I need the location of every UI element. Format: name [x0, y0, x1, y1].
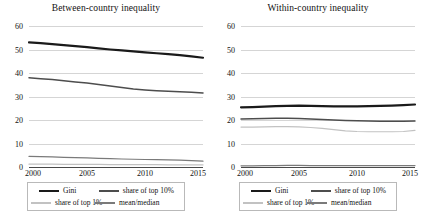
legend-item-share-of-top-1-[interactable]: share of top 1%	[243, 197, 305, 209]
line-gini	[29, 42, 203, 57]
legend-row: share of top 1%mean/median	[243, 197, 393, 209]
x-tick-label: 2010	[137, 169, 153, 178]
series-lines-left	[29, 26, 203, 167]
line-share-of-top-10-	[241, 118, 415, 121]
x-axis-labels-right: 2000200520102015	[241, 169, 415, 181]
y-axis-labels-right: 0102030405060	[212, 26, 238, 167]
legend-label: share of top 10%	[335, 186, 386, 196]
legend-swatch-icon	[99, 190, 119, 192]
legend-label: Gini	[63, 186, 76, 196]
legend-swatch-icon	[251, 190, 271, 192]
y-tick-label: 60	[227, 22, 235, 31]
panel-within-country: Within-country inequality 0102030405060 …	[212, 0, 424, 215]
y-tick-label: 50	[227, 45, 235, 54]
legend-swatch-icon	[307, 202, 327, 203]
y-tick-label: 10	[15, 139, 23, 148]
legend-left: Ginishare of top 10%share of top 1%mean/…	[27, 182, 185, 211]
legend-row: Ginishare of top 10%	[243, 185, 393, 197]
y-tick-label: 0	[19, 163, 23, 172]
y-tick-label: 50	[15, 45, 23, 54]
legend-item-mean-median[interactable]: mean/median	[305, 197, 393, 209]
legend-item-gini[interactable]: Gini	[243, 185, 309, 197]
legend-row: Ginishare of top 10%	[31, 185, 181, 197]
legend-item-share-of-top-10-[interactable]: share of top 10%	[309, 185, 393, 197]
legend-label: mean/median	[119, 198, 159, 208]
legend-label: mean/median	[331, 198, 371, 208]
legend-item-share-of-top-1-[interactable]: share of top 1%	[31, 197, 93, 209]
y-tick-label: 10	[227, 139, 235, 148]
y-tick-label: 60	[15, 22, 23, 31]
y-axis-labels-left: 0102030405060	[0, 26, 26, 167]
legend-swatch-icon	[311, 190, 331, 192]
x-axis-labels-left: 2000200520102015	[29, 169, 203, 181]
panel-between-country: Between-country inequality 0102030405060…	[0, 0, 212, 215]
x-tick-label: 2015	[190, 169, 206, 178]
line-share-of-top-1-	[29, 164, 203, 165]
line-share-of-top-1-	[241, 127, 415, 132]
legend-label: share of top 10%	[123, 186, 174, 196]
inequality-figure: Between-country inequality 0102030405060…	[0, 0, 424, 215]
x-tick-label: 2005	[291, 169, 307, 178]
legend-right: Ginishare of top 10%share of top 1%mean/…	[239, 182, 397, 211]
legend-swatch-icon	[39, 190, 59, 192]
legend-swatch-icon	[243, 202, 263, 203]
series-lines-right	[241, 26, 415, 167]
line-mean-median	[29, 156, 203, 161]
line-share-of-top-10-	[29, 78, 203, 93]
y-tick-label: 20	[227, 116, 235, 125]
legend-item-mean-median[interactable]: mean/median	[93, 197, 181, 209]
x-axis-line-left	[29, 167, 203, 168]
y-tick-label: 30	[15, 92, 23, 101]
panel-title-within-country: Within-country inequality	[212, 3, 424, 13]
legend-swatch-icon	[95, 202, 115, 203]
plot-area-right	[241, 26, 415, 167]
y-tick-label: 0	[231, 163, 235, 172]
plot-area-left	[29, 26, 203, 167]
legend-item-share-of-top-10-[interactable]: share of top 10%	[97, 185, 181, 197]
panel-title-between-country: Between-country inequality	[0, 3, 212, 13]
legend-row: share of top 1%mean/median	[31, 197, 181, 209]
x-axis-line-right	[241, 167, 415, 168]
x-tick-label: 2010	[349, 169, 365, 178]
line-gini	[241, 104, 415, 107]
y-tick-label: 40	[15, 69, 23, 78]
y-tick-label: 20	[15, 116, 23, 125]
legend-swatch-icon	[31, 202, 51, 203]
x-tick-label: 2005	[79, 169, 95, 178]
x-tick-label: 2000	[237, 169, 253, 178]
x-tick-label: 2000	[25, 169, 41, 178]
legend-item-gini[interactable]: Gini	[31, 185, 97, 197]
y-tick-label: 30	[227, 92, 235, 101]
x-tick-label: 2015	[402, 169, 418, 178]
legend-label: Gini	[275, 186, 288, 196]
y-tick-label: 40	[227, 69, 235, 78]
